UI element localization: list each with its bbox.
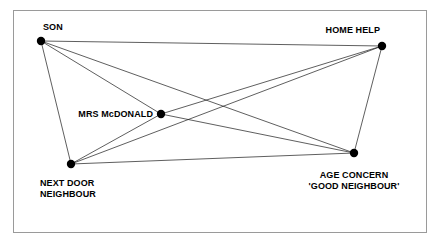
edge-mrs-mcdonald-to-age-concern [161, 114, 354, 153]
node-home-help[interactable] [378, 42, 386, 50]
node-son[interactable] [37, 37, 45, 45]
node-age-concern[interactable] [350, 149, 358, 157]
screenshot-root: SONHOME HELPMRS McDONALDNEXT DOOR NEIGHB… [0, 0, 442, 245]
edge-mrs-mcdonald-to-next-door-neighbour [71, 114, 161, 164]
node-label-age-concern: AGE CONCERN 'GOOD NEIGHBOUR' [133, 170, 442, 191]
edge-layer [41, 41, 382, 164]
edge-home-help-to-mrs-mcdonald [161, 46, 382, 114]
node-mrs-mcdonald[interactable] [157, 110, 165, 118]
edge-son-to-next-door-neighbour [41, 41, 71, 164]
edge-next-door-neighbour-to-age-concern [71, 153, 354, 164]
edge-home-help-to-age-concern [354, 46, 382, 153]
node-label-mrs-mcdonald: MRS McDONALD [78, 109, 153, 120]
node-label-son: SON [43, 22, 63, 33]
edge-son-to-home-help [41, 41, 382, 46]
node-label-home-help: HOME HELP [326, 25, 380, 36]
node-layer [37, 37, 386, 168]
node-next-door-neighbour[interactable] [67, 160, 75, 168]
node-label-next-door-neighbour: NEXT DOOR NEIGHBOUR [40, 178, 96, 199]
edge-son-to-age-concern [41, 41, 354, 153]
network-diagram [0, 0, 442, 245]
